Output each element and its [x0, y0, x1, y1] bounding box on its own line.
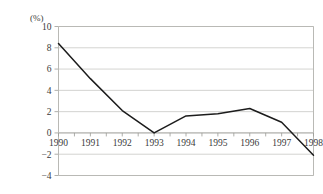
y-axis-ticks-group [55, 27, 59, 176]
y-axis-tick-label: 6 [47, 64, 52, 74]
line-chart: 1086420−2−4 1990199119921993199419951996… [0, 0, 323, 194]
x-axis-tick-label: 1991 [81, 138, 100, 148]
x-axis-ticks-group [59, 133, 314, 137]
x-axis-tick-label: 1990 [49, 138, 68, 148]
y-axis-tick-label: −4 [41, 171, 51, 181]
y-axis-tick-label: 10 [42, 22, 52, 32]
x-axis-tick-label: 1993 [145, 138, 164, 148]
x-axis-tick-label: 1997 [272, 138, 291, 148]
x-axis-tick-label: 1994 [177, 138, 196, 148]
x-axis-tick-label: 1992 [113, 138, 132, 148]
y-axis-tick-label: 8 [47, 43, 52, 53]
plot-frame [59, 27, 314, 176]
y-axis-tick-label: 4 [47, 86, 52, 96]
x-axis-tick-label: 1996 [240, 138, 259, 148]
chart-canvas: 1086420−2−4 1990199119921993199419951996… [0, 0, 323, 194]
x-axis-tick-label: 1998 [304, 138, 323, 148]
y-axis-tick-label: −2 [41, 150, 51, 160]
x-axis-tick-labels: 199019911992199319941995199619971998 [49, 138, 323, 148]
y-axis-tick-label: 0 [47, 128, 52, 138]
y-axis-unit-label: (%) [30, 13, 44, 23]
y-axis-tick-label: 2 [47, 107, 52, 117]
y-axis-tick-labels: 1086420−2−4 [41, 22, 51, 181]
gridlines-group [59, 27, 314, 176]
x-axis-tick-label: 1995 [208, 138, 227, 148]
